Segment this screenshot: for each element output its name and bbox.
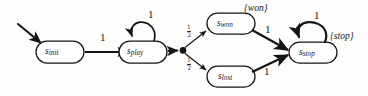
transition-weight-init-to-play: 1 — [100, 32, 106, 43]
state-label-s-stop: sstop — [299, 48, 315, 58]
state-label-s-won: swon — [217, 19, 233, 29]
event-label-stop: {stop} — [330, 32, 353, 42]
state-label-s-lost: slost — [218, 72, 232, 82]
state-label-s-play: splay — [127, 47, 143, 57]
transition-play-self-loop — [131, 22, 154, 41]
transition-weight-won-to-stop: 1 — [265, 24, 271, 35]
transition-lost-to-stop — [252, 55, 288, 72]
probabilistic-branch-point — [180, 47, 187, 54]
transition-weight-play-loop: 1 — [148, 9, 154, 20]
transition-stop-self-loop — [298, 22, 326, 42]
transition-weight-stop-loop: 1 — [314, 10, 320, 21]
state-node-s-init[interactable] — [36, 41, 84, 63]
transition-play-to-branch — [168, 47, 186, 54]
state-label-s-init: sinit — [45, 47, 58, 57]
transition-weight-lost-to-stop: 1 — [264, 66, 270, 77]
event-label-won: {won} — [244, 4, 267, 14]
state-machine-diagram: sinit splay swon slost sstop 1 1 1 1 1 1… — [0, 0, 368, 96]
initial-state-arrow — [18, 24, 41, 43]
